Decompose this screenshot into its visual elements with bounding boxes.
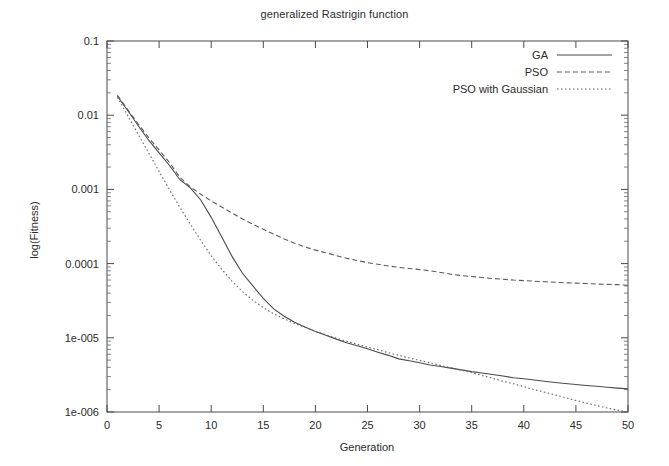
x-axis-title: Generation [340,441,394,453]
y-axis-title: log(Fitness) [28,201,40,258]
y-tick-label: 0.001 [71,183,99,195]
data-series-group [117,95,628,412]
x-tick-label: 35 [466,419,478,431]
x-tick-label: 15 [257,419,269,431]
y-tick-label: 1e-005 [65,332,99,344]
y-tick-label: 1e-006 [65,406,99,418]
series-line-pso [117,95,628,285]
x-tick-label: 20 [309,419,321,431]
chart-plot-area: 0.10.010.0010.00011e-0051e-006 051015202… [0,0,669,466]
x-tick-label: 30 [413,419,425,431]
x-tick-label: 25 [361,419,373,431]
y-tick-label: 0.01 [78,109,99,121]
legend-label-ga: GA [532,49,549,61]
figure-container: generalized Rastrigin function 0.10.010.… [0,0,669,466]
y-tick-label: 0.0001 [65,258,99,270]
x-tick-label: 40 [518,419,530,431]
x-tick-label: 5 [156,419,162,431]
chart-legend: GAPSOPSO with Gaussian [453,49,612,95]
series-line-pso-with-gaussian [117,97,628,412]
legend-label-pso-with-gaussian: PSO with Gaussian [453,83,548,95]
x-tick-label: 0 [104,419,110,431]
legend-label-pso: PSO [525,66,549,78]
x-axis-ticks: 05101520253035404550 [104,41,634,431]
x-tick-label: 50 [622,419,634,431]
series-line-ga [117,96,628,389]
x-tick-label: 10 [205,419,217,431]
x-tick-label: 45 [570,419,582,431]
plot-frame [107,41,628,412]
y-tick-label: 0.1 [84,35,99,47]
